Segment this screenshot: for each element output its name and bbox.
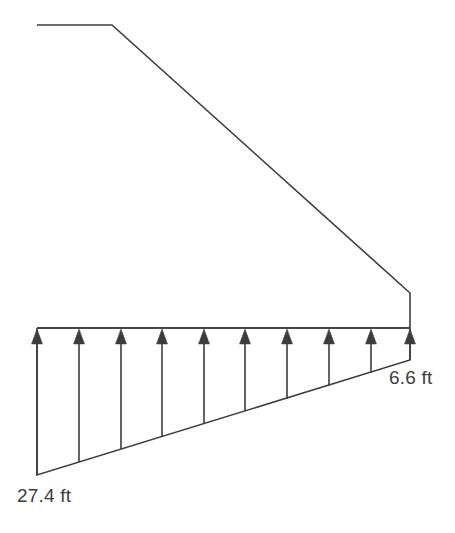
left-pressure-label: 27.4 ft (17, 485, 72, 506)
canvas-background (0, 0, 455, 533)
right-pressure-label: 6.6 ft (389, 367, 433, 388)
figure-container: 27.4 ft 6.6 ft (0, 0, 455, 533)
uplift-pressure-diagram: 27.4 ft 6.6 ft (0, 0, 455, 533)
